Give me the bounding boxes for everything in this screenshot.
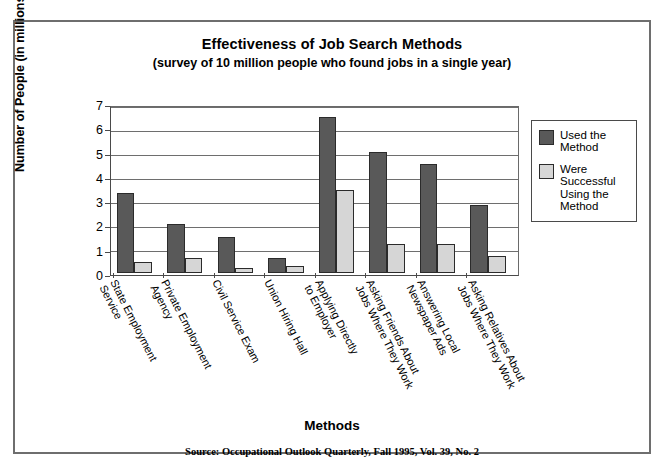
bar-group	[365, 108, 416, 273]
bar-used-the-method	[167, 224, 185, 274]
chart-subtitle: (survey of 10 million people who found j…	[15, 56, 649, 70]
y-axis-tick-mark	[105, 227, 110, 228]
x-axis-category-label: Union Hiring Hall	[261, 278, 309, 357]
x-axis-category-label: Answering LocalNewspaper Ads	[404, 278, 461, 360]
chart-frame: Effectiveness of Job Search Methods (sur…	[13, 20, 651, 454]
y-axis-tick-mark	[105, 130, 110, 131]
bar-group	[214, 108, 265, 273]
bar-were-successful	[286, 266, 304, 273]
bar-were-successful	[134, 262, 152, 274]
plot-area: 01234567	[110, 106, 519, 276]
y-axis-tick-label: 6	[96, 123, 103, 137]
y-axis-tick-mark	[105, 155, 110, 156]
y-axis-tick-mark	[105, 203, 110, 204]
chart-legend: Used theMethodWereSuccessfulUsing theMet…	[531, 120, 637, 222]
bar-were-successful	[235, 268, 253, 274]
bar-used-the-method	[218, 237, 236, 274]
bar-were-successful	[488, 256, 506, 274]
legend-item: Used theMethod	[539, 129, 629, 154]
bar-used-the-method	[319, 117, 337, 274]
bar-used-the-method	[369, 152, 387, 273]
source-note: Source: Occupational Outlook Quarterly, …	[15, 446, 649, 457]
bar-group	[163, 108, 214, 273]
x-axis-category-label: Civil Service Exam	[210, 278, 262, 365]
bar-group	[315, 108, 366, 273]
chart-title: Effectiveness of Job Search Methods	[15, 36, 649, 52]
bar-used-the-method	[420, 164, 438, 274]
bar-were-successful	[336, 190, 354, 274]
y-axis-tick-label: 4	[96, 172, 103, 186]
bar-group	[113, 108, 164, 273]
y-axis-title: Number of People (in millions)	[13, 0, 27, 172]
x-axis-category-label: Applying Directlyto Employer	[302, 278, 360, 362]
x-axis-category-label: Asking Relatives AboutJobs Where They Wo…	[455, 278, 528, 391]
bar-used-the-method	[117, 193, 135, 273]
bar-groups	[113, 108, 517, 273]
y-axis-tick-mark	[105, 252, 110, 253]
y-axis-tick-mark	[105, 276, 110, 277]
legend-swatch-used	[539, 130, 554, 145]
legend-label: Used theMethod	[560, 129, 606, 154]
bar-used-the-method	[470, 205, 488, 273]
y-axis-tick-label: 0	[96, 269, 103, 283]
y-axis-tick-label: 2	[96, 220, 103, 234]
legend-item: WereSuccessfulUsing theMethod	[539, 163, 629, 213]
legend-label: WereSuccessfulUsing theMethod	[560, 163, 616, 213]
bar-group	[416, 108, 467, 273]
y-axis-tick-label: 7	[96, 99, 103, 113]
y-axis-tick-mark	[105, 106, 110, 107]
bar-were-successful	[185, 258, 203, 273]
x-axis-title: Methods	[15, 418, 649, 433]
bar-group	[264, 108, 315, 273]
legend-swatch-successful	[539, 164, 554, 179]
y-axis-tick-label: 5	[96, 148, 103, 162]
y-axis-tick-label: 1	[96, 245, 103, 259]
y-axis-tick-mark	[105, 179, 110, 180]
x-axis-category-label: Private EmploymentAgency	[149, 278, 214, 376]
plot-canvas	[110, 106, 519, 276]
bar-group	[466, 108, 517, 273]
bar-used-the-method	[268, 258, 286, 273]
x-axis-category-labels: State EmploymentServicePrivate Employmen…	[110, 278, 519, 408]
bar-were-successful	[437, 244, 455, 273]
bar-were-successful	[387, 244, 405, 273]
y-axis-tick-label: 3	[96, 196, 103, 210]
